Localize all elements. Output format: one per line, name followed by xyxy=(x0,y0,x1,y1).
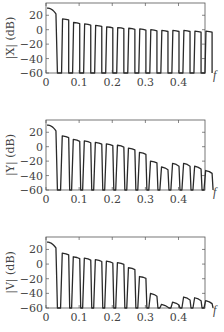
chart-v-spectrum: 200−20−40−6000.10.20.30.4f|V| (dB) xyxy=(0,0,224,332)
x-axis-label: f xyxy=(213,303,218,317)
x-tick-label: 0.2 xyxy=(104,311,122,324)
x-tick-label: 0.1 xyxy=(70,311,88,324)
y-tick-label: −20 xyxy=(20,273,43,286)
y-tick-label: 20 xyxy=(29,243,43,256)
x-tick-label: 0.3 xyxy=(137,311,155,324)
y-axis-label: |V| (dB) xyxy=(4,251,18,294)
spectrum-line xyxy=(47,242,213,308)
y-tick-label: −40 xyxy=(20,287,43,300)
x-tick-label: 0.4 xyxy=(170,311,188,324)
panel-v-spectrum: 200−20−40−6000.10.20.30.4f|V| (dB) xyxy=(0,0,224,110)
x-tick-label: 0 xyxy=(43,311,50,324)
y-tick-label: 0 xyxy=(36,258,43,271)
y-tick-label: −60 xyxy=(20,302,43,315)
